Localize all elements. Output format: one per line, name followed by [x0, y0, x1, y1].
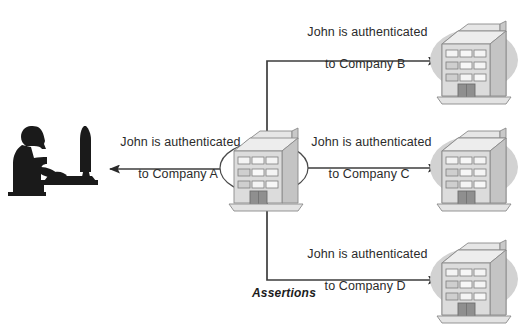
label-company-d-line1: John is authenticated: [307, 247, 427, 261]
diagram-canvas: John is authenticated to Company A John …: [0, 0, 520, 325]
diagram-graphics: [0, 0, 520, 325]
label-company-b: John is authenticated to Company B: [293, 8, 423, 88]
label-company-b-line1: John is authenticated: [307, 25, 427, 39]
label-company-a: John is authenticated to Company A: [106, 118, 236, 198]
label-company-c: John is authenticated to Company C: [297, 118, 427, 198]
label-company-c-line2: to Company C: [329, 167, 410, 181]
company-b-building: [430, 21, 518, 104]
label-assertions: Assertions: [252, 286, 316, 300]
label-company-c-line1: John is authenticated: [311, 135, 431, 149]
label-company-a-line1: John is authenticated: [120, 135, 240, 149]
company-c-building: [430, 128, 518, 211]
company-d-building: [430, 240, 518, 323]
user-at-computer-silhouette: [8, 126, 98, 196]
label-company-b-line2: to Company B: [325, 57, 405, 71]
label-company-a-line2: to Company A: [138, 167, 218, 181]
label-company-d-line2: to Company D: [325, 279, 406, 293]
